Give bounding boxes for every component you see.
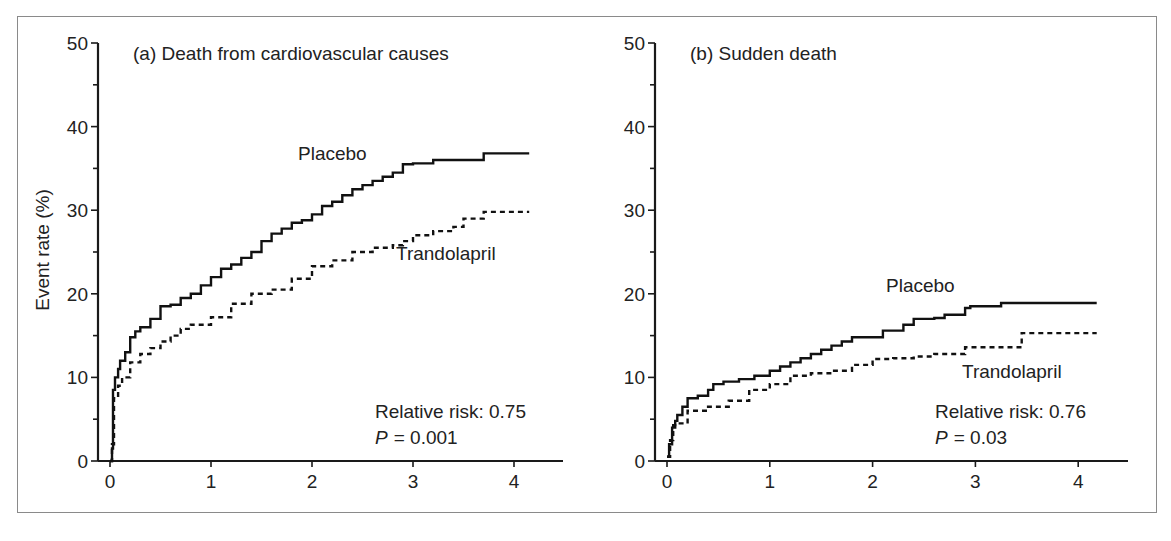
x-ticks-a: 01234 (105, 461, 520, 492)
y-axis-label: Event rate (%) (32, 189, 53, 310)
y-tick-label: 40 (624, 117, 645, 138)
x-tick-label: 2 (867, 471, 878, 492)
p-value-a: P= 0.001 (375, 427, 458, 448)
y-tick-label: 30 (624, 200, 645, 221)
x-tick-label: 0 (105, 471, 116, 492)
y-ticks-b: 01020304050 (624, 33, 655, 472)
y-tick-label: 40 (67, 117, 88, 138)
x-tick-label: 3 (408, 471, 419, 492)
trandolapril-line-b (667, 333, 1097, 457)
trandolapril-label-a: Trandolapril (396, 243, 496, 264)
x-tick-label: 1 (206, 471, 217, 492)
figure-svg: Event rate (%) 01020304050 01234 (a) Dea… (0, 0, 1171, 541)
trandolapril-label-b: Trandolapril (962, 361, 1062, 382)
y-tick-label: 50 (67, 33, 88, 54)
p-symbol-b: P (935, 427, 948, 448)
x-tick-label: 4 (1073, 471, 1084, 492)
panel-a-title: (a) Death from cardiovascular causes (133, 43, 449, 64)
panel-a: 01020304050 01234 (a) Death from cardiov… (67, 33, 563, 492)
x-tick-label: 2 (307, 471, 318, 492)
y-tick-label: 0 (634, 451, 645, 472)
p-value-b: P= 0.03 (935, 427, 1007, 448)
x-tick-label: 4 (509, 471, 520, 492)
x-tick-label: 0 (662, 471, 673, 492)
x-ticks-b: 01234 (662, 461, 1084, 492)
relative-risk-a: Relative risk: 0.75 (375, 401, 526, 422)
x-tick-label: 1 (765, 471, 776, 492)
placebo-label-b: Placebo (886, 275, 955, 296)
y-ticks-a: 01020304050 (67, 33, 98, 472)
p-symbol-a: P (375, 427, 388, 448)
x-tick-label: 3 (970, 471, 981, 492)
panel-b-title: (b) Sudden death (690, 43, 837, 64)
y-tick-label: 30 (67, 200, 88, 221)
placebo-label-a: Placebo (298, 143, 367, 164)
panel-b: 01020304050 01234 (b) Sudden death Place… (624, 33, 1128, 492)
y-tick-label: 10 (67, 367, 88, 388)
relative-risk-b: Relative risk: 0.76 (935, 401, 1086, 422)
y-tick-label: 0 (77, 451, 88, 472)
p-value-text-b: = 0.03 (954, 427, 1007, 448)
y-tick-label: 10 (624, 367, 645, 388)
p-value-text-a: = 0.001 (394, 427, 458, 448)
y-tick-label: 20 (67, 284, 88, 305)
y-tick-label: 50 (624, 33, 645, 54)
y-tick-label: 20 (624, 284, 645, 305)
